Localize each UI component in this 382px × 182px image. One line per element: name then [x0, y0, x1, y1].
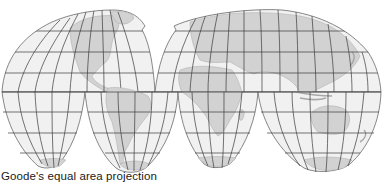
australia-landmass	[311, 106, 349, 135]
map-caption: Goode's equal area projection	[1, 170, 157, 182]
goode-projection-map	[0, 0, 382, 182]
south-lobe-pacific	[2, 92, 85, 168]
north-lobe-eurasia	[150, 10, 382, 92]
south-lobes	[2, 87, 381, 172]
antarctica-landmass-3	[198, 157, 236, 167]
north-lobe-americas	[0, 10, 160, 92]
